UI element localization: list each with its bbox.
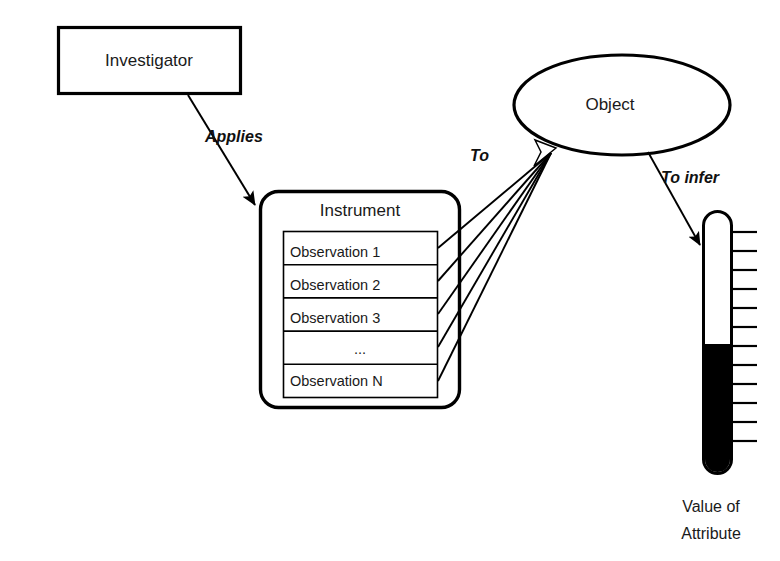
edge-to-fan: To [438,140,556,381]
observation-row-label: Observation N [290,373,383,389]
diagram-canvas: Investigator Applies Instrument Observat… [0,0,780,561]
observation-row-label: Observation 3 [290,310,380,326]
to-label: To [470,147,489,164]
applies-arrow-line [188,95,255,205]
node-instrument[interactable]: Instrument Observation 1 Observation 2 O… [261,192,460,408]
table-row[interactable]: Observation N [290,373,383,389]
investigator-label: Investigator [105,51,193,70]
node-object[interactable]: Object [514,55,730,155]
to-infer-label: To infer [661,169,720,186]
thermometer-caption-line-2: Attribute [681,525,741,542]
observation-row-ellipsis-label: ... [354,341,366,357]
thermometer-caption-line-1: Value of [682,498,740,515]
observation-row-label: Observation 2 [290,277,380,293]
node-investigator[interactable]: Investigator [59,28,241,94]
applies-label: Applies [204,128,263,145]
instrument-label: Instrument [320,201,401,220]
edge-applies: Applies [188,95,263,205]
measurement-process-diagram: Investigator Applies Instrument Observat… [0,0,780,561]
observation-row-label: Observation 1 [290,244,380,260]
thermometer-fill [705,344,730,472]
observation-table: Observation 1 Observation 2 Observation … [284,232,438,398]
thermometer-ticks [732,232,757,441]
node-thermometer[interactable]: Value of Attribute [681,212,757,543]
to-infer-arrow-line [648,152,700,245]
object-label: Object [585,95,634,114]
